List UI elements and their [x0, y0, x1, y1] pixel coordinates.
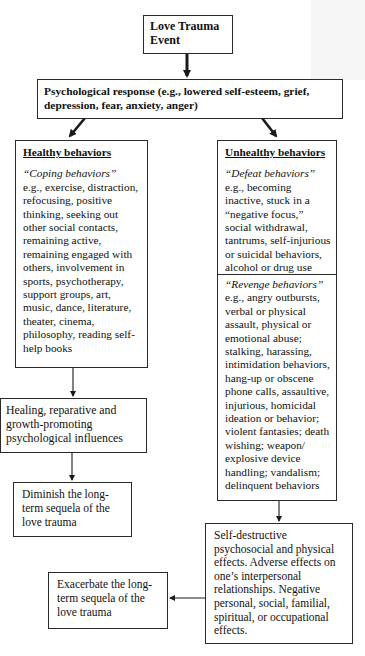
node-unhealthy-behaviors: Unhealthy behaviors “Defeat behaviors” e…: [217, 140, 337, 501]
defeat-subheading: “Defeat behaviors”: [225, 167, 331, 180]
node-exacerbate-label: Exacerbate the long-term sequela of the …: [57, 578, 152, 618]
node-diminish-label: Diminish the long-term sequela of the lo…: [22, 488, 110, 528]
node-diminish-sequela: Diminish the long-term sequela of the lo…: [13, 482, 132, 537]
node-psychological-response: Psychological response (e.g., lowered se…: [37, 79, 343, 119]
unhealthy-defeat-section: Unhealthy behaviors “Defeat behaviors” e…: [218, 141, 336, 275]
defeat-text: e.g., becoming inactive, stuck in a “neg…: [225, 181, 331, 275]
node-self-destructive-label: Self-destructive psychosocial and physic…: [214, 529, 336, 636]
unhealthy-revenge-section: “Revenge behaviors” e.g., angry outburst…: [218, 275, 336, 493]
node-love-trauma-event: Love Trauma Event: [143, 15, 233, 54]
node-psychological-response-label: Psychological response (e.g., lowered se…: [44, 85, 309, 111]
node-exacerbate-sequela: Exacerbate the long-term sequela of the …: [48, 572, 168, 629]
revenge-text: e.g., angry outbursts, verbal or physica…: [225, 291, 332, 492]
revenge-subheading: “Revenge behaviors”: [225, 278, 332, 291]
arrow-response-to-unhealthy: [262, 118, 276, 136]
healthy-subheading: “Coping behaviors”: [23, 167, 141, 180]
unhealthy-heading: Unhealthy behaviors: [225, 146, 331, 159]
node-love-trauma-event-label: Love Trauma Event: [150, 19, 219, 47]
node-healing-label: Healing, reparative and growth-promoting…: [6, 403, 123, 445]
arrow-response-to-healthy: [70, 118, 85, 136]
healthy-text: e.g., exercise, distraction, refocusing,…: [23, 181, 141, 355]
node-healing-influences: Healing, reparative and growth-promoting…: [0, 398, 147, 453]
healthy-heading: Healthy behaviors: [23, 146, 141, 159]
node-healthy-behaviors: Healthy behaviors “Coping behaviors” e.g…: [15, 140, 148, 368]
node-self-destructive-effects: Self-destructive psychosocial and physic…: [205, 523, 353, 644]
